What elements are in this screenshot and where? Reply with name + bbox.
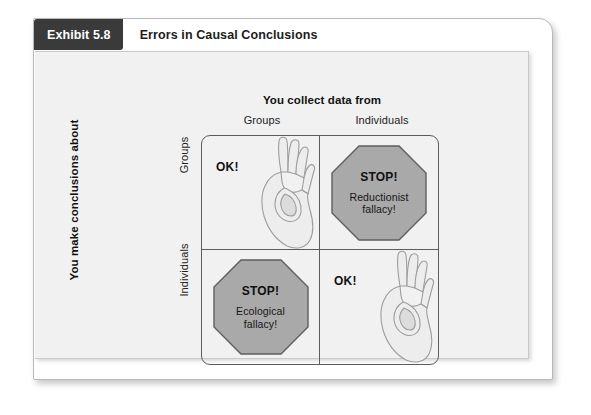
exhibit-card: Exhibit 5.8 Errors in Causal Conclusions… [33, 18, 553, 380]
column-header-groups: Groups [202, 114, 322, 126]
fallacy-line-2: fallacy! [350, 203, 409, 216]
verdict-label: STOP! [242, 284, 279, 298]
matrix-cell-groups-individuals: STOP! Ecological fallacy! [202, 250, 320, 364]
stop-octagon-text: STOP! Ecological fallacy! [213, 259, 309, 355]
stop-octagon-icon: STOP! Ecological fallacy! [213, 259, 309, 355]
stop-octagon-text: STOP! Reductionist fallacy! [331, 145, 427, 241]
ok-hand-icon [369, 250, 437, 364]
matrix-cell-individuals-groups: STOP! Reductionist fallacy! [320, 136, 438, 250]
matrix-cell-groups-groups: OK! [202, 136, 320, 250]
exhibit-header: Exhibit 5.8 Errors in Causal Conclusions [34, 19, 552, 50]
row-axis-label: You make conclusions about [68, 90, 80, 310]
exhibit-number-tab: Exhibit 5.8 [34, 19, 123, 50]
verdict-label: STOP! [360, 170, 397, 184]
fallacy-line-1: Reductionist [350, 191, 409, 204]
fallacy-label: Ecological fallacy! [236, 305, 285, 330]
verdict-label: OK! [216, 160, 239, 174]
exhibit-content-panel: You collect data from Groups Individuals… [35, 51, 529, 359]
ok-hand-icon [250, 136, 318, 250]
fallacy-line-1: Ecological [236, 305, 285, 318]
row-header-groups: Groups [178, 100, 190, 210]
fallacy-label: Reductionist fallacy! [350, 191, 409, 216]
column-header-individuals: Individuals [322, 114, 442, 126]
verdict-label: OK! [334, 274, 357, 288]
fallacy-line-2: fallacy! [236, 318, 285, 331]
column-axis-label: You collect data from [202, 94, 442, 106]
exhibit-title: Errors in Causal Conclusions [123, 19, 318, 50]
row-header-individuals: Individuals [178, 215, 190, 325]
stop-octagon-icon: STOP! Reductionist fallacy! [331, 145, 427, 241]
matrix-cell-individuals-individuals: OK! [320, 250, 438, 364]
two-by-two-matrix: OK! [201, 135, 439, 365]
